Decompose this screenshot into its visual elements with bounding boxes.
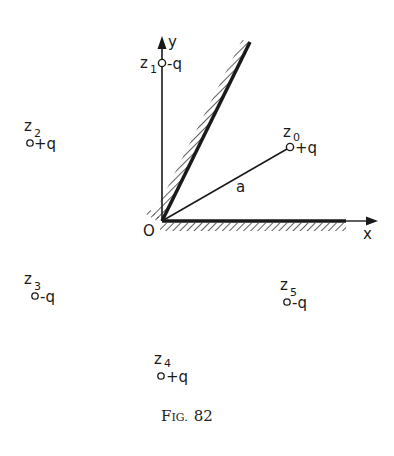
caption-smallcaps: IG.: [171, 411, 187, 424]
charge-z0-value: +q: [295, 139, 317, 157]
charge-marker-icon: [158, 373, 164, 379]
charge-z2-name: z: [24, 117, 32, 135]
y-axis-label: y: [168, 33, 177, 51]
charge-z2: z 2 +q: [24, 117, 56, 153]
charge-z5-name: z: [280, 276, 288, 294]
charge-z1: z 1 -q: [140, 54, 182, 76]
charge-z4: z 4 +q: [154, 350, 188, 386]
charge-z1-sub: 1: [150, 63, 157, 76]
charge-z4-value: +q: [166, 368, 188, 386]
image-charges-diagram: x y a O z 0 +q z 1 -q z 2 +q z 3 -q: [0, 0, 394, 456]
charge-marker-icon: [32, 293, 38, 299]
charge-z5: z 5 -q: [280, 276, 307, 312]
charge-z4-name: z: [154, 350, 162, 368]
charge-z0: z 0 +q: [283, 123, 317, 157]
segment-a-label: a: [236, 178, 245, 196]
charge-z0-name: z: [283, 123, 291, 141]
charge-z1-name: z: [140, 54, 148, 72]
charge-z1-value: -q: [167, 55, 182, 73]
origin-label: O: [143, 222, 155, 240]
caption-prefix: F: [161, 407, 171, 425]
charge-z3: z 3 -q: [24, 270, 55, 306]
charge-z5-value: -q: [292, 294, 307, 312]
charge-marker-icon: [284, 299, 290, 305]
charge-marker-icon: [158, 59, 165, 66]
charge-z3-value: -q: [40, 288, 55, 306]
x-wall-hatching: [160, 223, 346, 231]
figure-caption: FIG.82: [161, 407, 213, 425]
caption-number: 82: [194, 407, 213, 425]
x-axis-label: x: [363, 225, 372, 243]
charge-z2-value: +q: [34, 135, 56, 153]
charge-marker-icon: [286, 143, 293, 150]
charge-z3-name: z: [24, 270, 32, 288]
y-axis-arrow-icon: [158, 36, 167, 49]
charge-marker-icon: [27, 140, 33, 146]
